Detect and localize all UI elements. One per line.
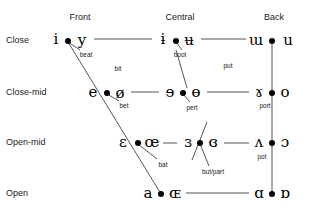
vowel-closemid-central-rounded: ɵ	[191, 85, 200, 100]
row-header-close: Close	[6, 35, 29, 45]
dot-close-back	[269, 38, 275, 44]
vowel-closemid-back-unrounded: ɤ	[255, 85, 263, 100]
gloss-pot: pot	[257, 153, 266, 160]
vowel-open-back-rounded: ɒ	[280, 186, 290, 201]
dot-closemid-back	[269, 90, 275, 96]
vowel-close-back-rounded: u	[283, 33, 293, 48]
vowel-close-back-unrounded: ɯ	[249, 33, 263, 48]
vowel-closemid-front-rounded: ø	[115, 86, 124, 101]
vowel-closemid-back-rounded: o	[280, 85, 289, 100]
vowel-close-front-unrounded: i	[54, 32, 59, 47]
gloss-bat: bat	[158, 161, 167, 168]
vowel-close-central-unrounded: ɨ	[161, 32, 166, 47]
vowel-open-front-rounded: ɶ	[169, 186, 181, 201]
gloss-bit: bit	[115, 65, 122, 72]
vowel-openmid-back-rounded: ɔ	[281, 135, 289, 150]
dot-close-central	[173, 38, 179, 44]
vowel-openmid-back-unrounded: ʌ	[255, 135, 263, 150]
gloss-pert: pert	[186, 104, 197, 111]
gloss-boot: boot	[174, 51, 187, 58]
row-header-open-mid: Open-mid	[6, 137, 46, 147]
dot-openmid-front	[135, 140, 141, 146]
dot-openmid-central	[197, 140, 203, 146]
column-header-back: Back	[264, 12, 284, 22]
column-header-central: Central	[165, 12, 194, 22]
gloss-port: port	[259, 102, 270, 109]
dot-open-back	[269, 191, 275, 197]
row-header-open: Open	[6, 188, 28, 198]
gloss-bet: bet	[119, 102, 128, 109]
dot-open-front	[158, 191, 164, 197]
vowel-closemid-central-unrounded: ɘ	[166, 85, 175, 100]
dot-close-front	[65, 38, 71, 44]
dot-closemid-front	[104, 90, 110, 96]
vowel-close-front-rounded: y	[78, 33, 86, 48]
vowel-open-back-unrounded: ɑ	[254, 186, 264, 201]
gloss-beat: beat	[80, 51, 93, 58]
gloss-put: put	[223, 62, 232, 69]
vowel-openmid-front-rounded: œ	[145, 135, 160, 150]
row-header-close-mid: Close-mid	[6, 87, 47, 97]
vowel-openmid-front-unrounded: ɛ	[119, 135, 127, 150]
vowel-open-front-unrounded: a	[144, 186, 153, 201]
vowel-openmid-central-unrounded: ɜ	[184, 135, 192, 150]
vowel-chart: FrontCentralBack CloseClose-midOpen-midO…	[0, 0, 312, 212]
gloss-but-part: but/part	[202, 168, 224, 175]
column-header-front: Front	[69, 12, 90, 22]
dot-closemid-central	[180, 90, 186, 96]
vowel-close-central-rounded: ʉ	[184, 33, 194, 48]
vowel-closemid-front-unrounded: e	[89, 85, 98, 100]
vowel-openmid-central-rounded: ɞ	[208, 135, 217, 150]
dot-openmid-back	[269, 140, 275, 146]
